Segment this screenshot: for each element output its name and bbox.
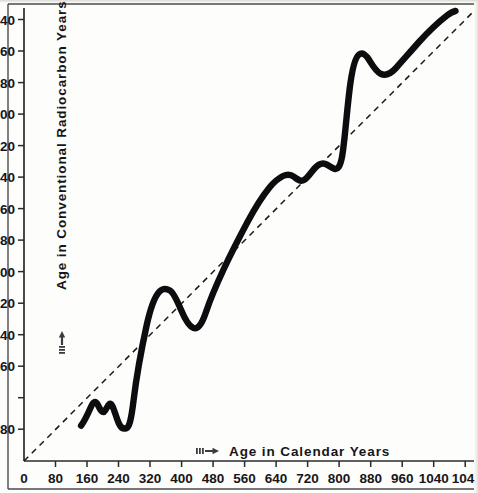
y-tick-label: 960 — [0, 44, 15, 59]
x-tick-label: 800 — [328, 471, 351, 486]
calibration-curve-path — [81, 11, 455, 429]
x-tick-label: 400 — [170, 471, 193, 486]
y-tick-label: 320 — [0, 296, 15, 311]
y-tick-label: 160 — [0, 359, 15, 374]
rightwards-arrow-icon — [196, 448, 219, 454]
y-tick-label: 880 — [0, 76, 15, 91]
axis-spines — [24, 8, 474, 461]
x-axis-title-group: Age in Calendar Years — [196, 444, 390, 459]
x-tick-label: 160 — [76, 471, 99, 486]
reference-line-1to1 — [24, 12, 473, 461]
x-tick-label: 720 — [296, 471, 319, 486]
x-tick-label: 560 — [233, 471, 256, 486]
x-tick-label: 480 — [202, 471, 225, 486]
x-axis-tick-labels: 0 80 160 240 320 400 480 560 640 720 800… — [20, 471, 475, 486]
upwards-arrow-icon — [59, 331, 65, 354]
x-axis-tick-marks — [56, 461, 466, 467]
x-origin-label: 0 — [20, 471, 28, 486]
x-tick-label: 1040 — [419, 471, 449, 486]
y-tick-label: 640 — [0, 170, 15, 185]
x-tick-label: 80 — [48, 471, 63, 486]
calibration-curve-plot: 1040 960 880 800 720 640 560 480 400 320… — [0, 0, 478, 493]
y-axis-title: Age in Conventional Radiocarbon Years — [54, 0, 69, 290]
y-tick-label: 240 — [0, 328, 15, 343]
y-tick-label: 400 — [0, 265, 15, 280]
x-tick-label: 240 — [107, 471, 130, 486]
x-tick-label: 960 — [391, 471, 414, 486]
y-tick-label: 80 — [0, 422, 15, 437]
figure-canvas: 1040 960 880 800 720 640 560 480 400 320… — [0, 0, 478, 493]
y-tick-label: 1040 — [0, 13, 15, 28]
x-tick-label: 640 — [265, 471, 288, 486]
y-axis-tick-marks — [18, 20, 24, 430]
x-tick-label: 320 — [139, 471, 162, 486]
y-tick-label: 560 — [0, 202, 15, 217]
y-tick-label: 800 — [0, 107, 15, 122]
x-axis-title: Age in Calendar Years — [229, 444, 390, 459]
figure-frame — [8, 4, 474, 489]
y-tick-label: 480 — [0, 233, 15, 248]
x-tick-label: 880 — [359, 471, 382, 486]
y-axis-title-group: Age in Conventional Radiocarbon Years — [54, 0, 69, 353]
y-tick-label: 720 — [0, 139, 15, 154]
x-tick-label-clipped: 104 — [452, 471, 475, 486]
